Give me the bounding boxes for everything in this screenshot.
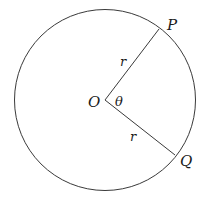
label-point-q: Q xyxy=(180,152,192,170)
label-center-o: O xyxy=(88,93,100,111)
label-point-p: P xyxy=(166,16,178,34)
label-angle-theta: θ xyxy=(115,94,123,109)
radius-op xyxy=(105,29,159,100)
circle-sector-diagram: P Q O θ r r xyxy=(0,0,207,202)
label-radius-oq: r xyxy=(130,129,137,144)
label-radius-op: r xyxy=(120,54,127,69)
